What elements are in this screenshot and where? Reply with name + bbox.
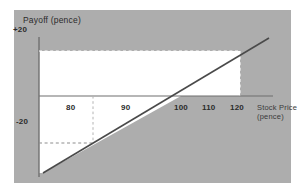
y-axis-title: Payoff (pence) bbox=[23, 15, 81, 25]
x-tick-label-110: 110 bbox=[202, 103, 216, 112]
x-axis-title-line1: Stock Price bbox=[257, 103, 297, 112]
payoff-chart-figure: Payoff (pence) +20 -20 80 90 100 110 120… bbox=[0, 0, 306, 194]
x-tick-label-120: 120 bbox=[230, 103, 244, 112]
x-tick-label-90: 90 bbox=[121, 103, 130, 112]
chart-panel: Payoff (pence) +20 -20 80 90 100 110 120… bbox=[14, 10, 291, 183]
x-tick-label-100: 100 bbox=[174, 103, 188, 112]
lower-payoff-fill bbox=[39, 96, 181, 173]
plot-area bbox=[14, 10, 291, 183]
y-tick-label-minus20: -20 bbox=[16, 117, 28, 126]
plot-svg bbox=[14, 10, 291, 183]
x-tick-label-80: 80 bbox=[66, 103, 75, 112]
x-axis-title-line2: (pence) bbox=[257, 112, 297, 121]
y-tick-label-plus20: +20 bbox=[13, 25, 27, 34]
x-axis-title: Stock Price (pence) bbox=[257, 103, 297, 121]
